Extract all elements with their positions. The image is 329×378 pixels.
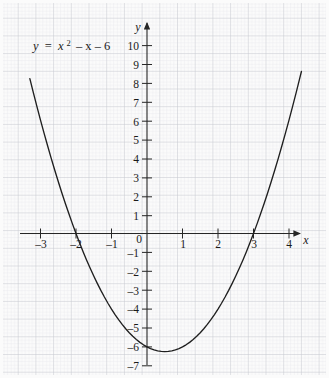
y-axis <box>142 23 152 366</box>
x-tick-label: 4 <box>286 238 292 250</box>
parabola-curve <box>30 72 302 352</box>
y-tick-label: –7 <box>127 360 140 372</box>
y-tick-label: 7 <box>133 97 139 109</box>
svg-text:y = x: y = x 2 – x – 6 <box>31 35 110 53</box>
y-tick-label: 5 <box>133 134 139 146</box>
x-tick-label: 1 <box>180 238 186 250</box>
y-tick-label: –2 <box>127 266 140 278</box>
y-axis-label: y <box>134 20 141 34</box>
equation-variable: x <box>57 39 64 53</box>
equation-lhs: y <box>31 39 39 53</box>
equation-equals: = <box>45 39 52 53</box>
y-tick-label: –6 <box>127 341 140 353</box>
x-tick-label: 2 <box>215 238 221 250</box>
x-tick-label: 0 <box>136 233 142 245</box>
x-axis-label: x <box>302 233 309 247</box>
y-tick-label: 6 <box>133 116 139 128</box>
equation-annotation: y = x 2 – x – 6 <box>31 35 110 53</box>
plot-area: –3 –2 –1 0 1 2 3 4 10 9 8 7 6 5 4 3 2 1 … <box>0 0 329 378</box>
x-tick-label: –1 <box>105 238 118 250</box>
y-tick-label: 9 <box>133 59 139 71</box>
y-tick-label: –1 <box>127 247 140 259</box>
y-tick-label: 4 <box>133 153 139 165</box>
y-tick-label: –3 <box>127 285 140 297</box>
y-tick-labels: 10 9 8 7 6 5 4 3 2 1 –1 –2 –3 –4 –5 –6 –… <box>127 40 140 372</box>
y-tick-label: 1 <box>133 210 139 222</box>
equation-tail: – x – 6 <box>75 39 110 53</box>
x-tick-label: 3 <box>251 238 257 250</box>
y-tick-label: 2 <box>133 191 139 203</box>
graph-figure: –3 –2 –1 0 1 2 3 4 10 9 8 7 6 5 4 3 2 1 … <box>0 0 329 378</box>
y-tick-label: 10 <box>128 40 140 52</box>
y-tick-label: 3 <box>133 172 139 184</box>
x-tick-label: –3 <box>34 238 47 250</box>
x-axis <box>20 229 300 239</box>
y-tick-label: –4 <box>127 303 140 315</box>
equation-exponent: 2 <box>67 38 71 48</box>
y-tick-label: 8 <box>133 78 139 90</box>
